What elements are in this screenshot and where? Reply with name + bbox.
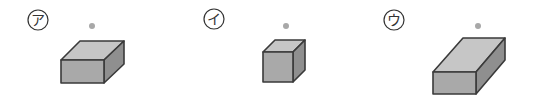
figure-2: イ	[204, 9, 305, 82]
box-front-face	[433, 72, 476, 94]
box-front-face	[263, 52, 293, 82]
figure-label: イ	[207, 11, 221, 27]
figure-3: ウ	[384, 10, 505, 94]
figure-label: ア	[31, 12, 45, 28]
figure-label: ウ	[387, 12, 401, 28]
light-source-dot	[475, 23, 481, 29]
figure-1: ア	[28, 10, 124, 83]
diagram-canvas: アイウ	[0, 0, 534, 99]
light-source-dot	[89, 23, 95, 29]
box-front-face	[61, 60, 104, 83]
light-source-dot	[283, 23, 289, 29]
